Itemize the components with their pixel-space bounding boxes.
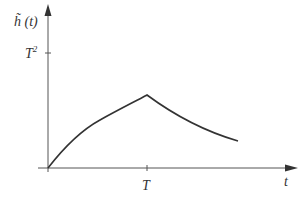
x-tick-label: T: [142, 178, 151, 193]
y-tick-label: T2: [25, 44, 38, 61]
curve-h-t: [48, 95, 238, 168]
y-axis-label: h̃ (t): [14, 13, 38, 30]
x-axis-arrow-icon: [285, 165, 298, 172]
chart: h̃ (t) T2 T t: [0, 0, 307, 197]
y-axis-arrow-icon: [45, 4, 52, 16]
x-axis-label: t: [284, 174, 289, 189]
